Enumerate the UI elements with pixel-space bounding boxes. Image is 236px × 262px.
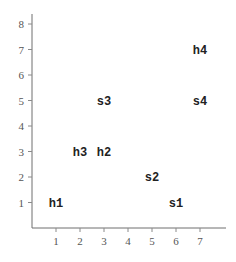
y-tick-label: 3: [19, 146, 25, 158]
y-tick-label: 2: [19, 171, 25, 183]
y-tick-label: 1: [19, 197, 25, 209]
y-tick-label: 6: [19, 69, 25, 81]
point-label-h2: h2: [97, 146, 111, 160]
x-axis-ticks: 1234567: [53, 228, 203, 247]
point-label-s1: s1: [169, 197, 183, 211]
point-label-h4: h4: [193, 44, 207, 58]
y-tick-label: 7: [19, 44, 25, 56]
scatter-chart: 1234567 12345678 h1h2h3h4s1s2s3s4: [0, 0, 236, 262]
y-tick-label: 5: [19, 95, 25, 107]
data-points: h1h2h3h4s1s2s3s4: [49, 44, 207, 211]
x-tick-label: 4: [125, 235, 131, 247]
point-label-h1: h1: [49, 197, 63, 211]
x-tick-label: 3: [101, 235, 107, 247]
x-tick-label: 6: [173, 235, 179, 247]
y-axis-ticks: 12345678: [19, 18, 33, 209]
point-label-s2: s2: [145, 171, 159, 185]
point-label-s3: s3: [97, 95, 111, 109]
x-tick-label: 7: [197, 235, 203, 247]
y-tick-label: 4: [19, 120, 25, 132]
x-tick-label: 5: [149, 235, 155, 247]
y-tick-label: 8: [19, 18, 25, 30]
point-label-h3: h3: [73, 146, 87, 160]
x-tick-label: 2: [77, 235, 83, 247]
point-label-s4: s4: [193, 95, 207, 109]
x-tick-label: 1: [53, 235, 59, 247]
